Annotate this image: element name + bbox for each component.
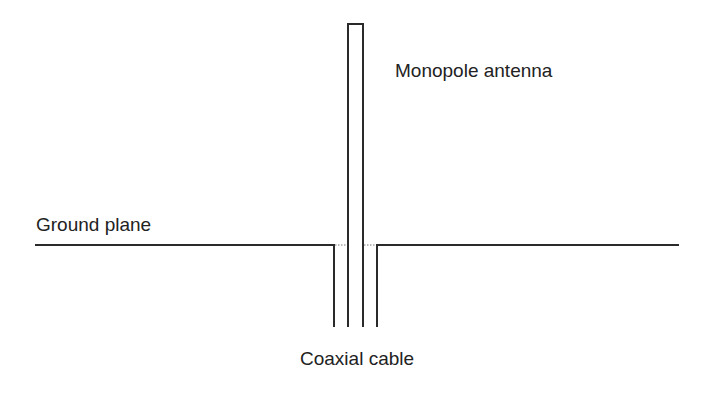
monopole-antenna [348,24,363,327]
antenna-diagram: Monopole antenna Ground plane Coaxial ca… [0,0,711,396]
label-ground-plane: Ground plane [36,214,151,235]
label-coaxial-cable: Coaxial cable [300,348,414,369]
label-monopole-antenna: Monopole antenna [395,60,553,81]
